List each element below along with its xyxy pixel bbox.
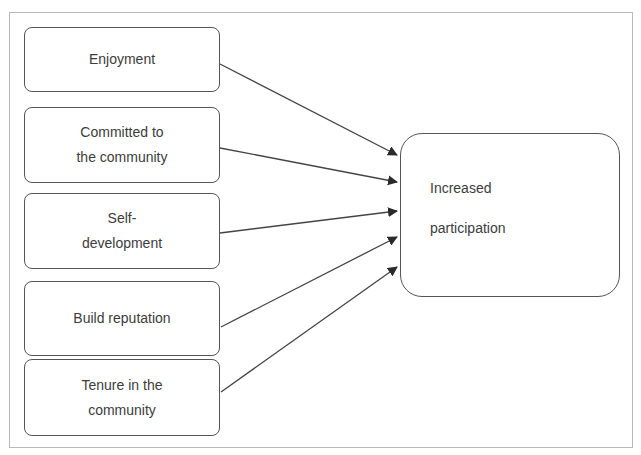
- factor-label-committed: Committed to the community: [76, 120, 167, 170]
- factor-label-build-reputation: Build reputation: [73, 306, 170, 331]
- outcome-label-line1: Increased: [430, 180, 491, 196]
- factor-box-tenure: Tenure in the community: [24, 359, 220, 436]
- factor-label-tenure: Tenure in the community: [82, 373, 163, 423]
- factor-box-self-development: Self- development: [24, 193, 220, 269]
- factor-box-committed: Committed to the community: [24, 107, 220, 183]
- outcome-label-line2: participation: [430, 220, 506, 236]
- outcome-box-increased-participation: Increased participation: [400, 133, 620, 297]
- factor-box-enjoyment: Enjoyment: [24, 27, 220, 92]
- factor-label-enjoyment: Enjoyment: [89, 47, 155, 72]
- factor-box-build-reputation: Build reputation: [24, 281, 220, 356]
- factor-label-self-development: Self- development: [82, 206, 162, 256]
